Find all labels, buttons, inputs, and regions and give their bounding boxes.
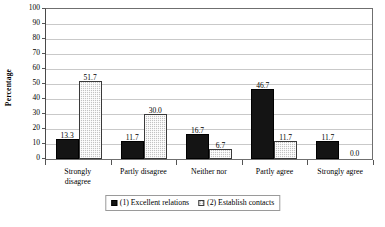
bar-value-label: 51.7 [84,73,97,82]
bar-value-label: 11.7 [279,133,292,142]
bar-value-label: 6.7 [216,141,225,150]
y-axis-tick-label: 90 [14,19,40,27]
bar: 51.7 [79,81,102,159]
chart-legend: (1) Excellent relations(2) Establish con… [105,195,280,211]
bar-value-label: 46.7 [256,81,269,90]
bar-value-label: 0.0 [350,149,359,158]
y-axis-title-label: Percentage [5,68,14,105]
bar-group: 11.730.0 [111,9,176,159]
x-axis-tick [111,160,112,165]
y-axis-tick-label: 20 [14,124,40,132]
y-axis-tick-label: 100 [14,4,40,12]
bar-groups: 13.351.711.730.016.76.746.711.711.70.0 [46,9,372,159]
y-axis-tick-label: 70 [14,49,40,57]
y-axis-tick-label: 30 [14,109,40,117]
bar: 16.7 [186,134,209,159]
bar-value-label: 11.7 [126,133,139,142]
bar-value-label: 13.3 [61,131,74,140]
y-axis-tick-label: 50 [14,79,40,87]
legend-item[interactable]: (2) Establish contacts [198,198,274,208]
x-axis-tick [45,160,46,165]
x-axis-category-label: Partly agree [242,167,308,187]
legend-swatch-icon [111,200,117,206]
bar: 46.7 [251,89,274,159]
x-axis-category-label: Partly disagree [111,167,177,187]
bar: 11.7 [121,141,144,159]
bar-group: 16.76.7 [176,9,241,159]
plot-area: 13.351.711.730.016.76.746.711.711.70.0 [45,8,373,160]
bar: 11.7 [274,141,297,159]
bar-value-label: 11.7 [321,133,334,142]
bar: 13.3 [56,139,79,159]
x-axis-category-label: Stronglydisagree [45,167,111,187]
y-axis-tick-label: 60 [14,64,40,72]
legend-item[interactable]: (1) Excellent relations [111,198,189,208]
bar-group: 46.711.7 [242,9,307,159]
bar-group: 11.70.0 [307,9,372,159]
bar-group: 13.351.7 [46,9,111,159]
x-axis-category-line: Strongly agree [307,167,373,177]
x-axis-labels: StronglydisagreePartly disagreeNeither n… [45,167,373,187]
bar: 11.7 [316,141,339,159]
y-axis-tick-label: 0 [14,154,40,162]
y-axis-tick-label: 80 [14,34,40,42]
x-axis-tick [307,160,308,165]
y-axis-tick-label: 40 [14,94,40,102]
legend-item-label: (2) Establish contacts [207,198,274,208]
x-axis-category-line: Partly disagree [111,167,177,177]
bar-chart: Percentage 0102030405060708090100 13.351… [0,0,385,227]
x-axis-tick [373,160,374,165]
x-axis-category-line: Neither nor [176,167,242,177]
x-axis-tick [242,160,243,165]
bar-value-label: 16.7 [191,126,204,135]
legend-item-label: (1) Excellent relations [120,198,189,208]
x-axis-category-label: Strongly agree [307,167,373,187]
x-axis-category-line: Partly agree [242,167,308,177]
legend-swatch-icon [198,200,204,206]
x-axis-tick [176,160,177,165]
y-axis-tick-label: 10 [14,139,40,147]
bar: 30.0 [144,114,167,159]
x-axis-category-label: Neither nor [176,167,242,187]
x-axis-category-line: disagree [45,177,111,187]
x-axis-category-line: Strongly [45,167,111,177]
bar-value-label: 30.0 [149,106,162,115]
bar: 6.7 [209,149,232,159]
